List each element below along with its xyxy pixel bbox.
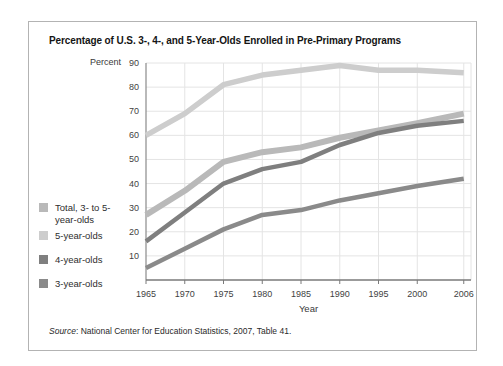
- legend-swatch: [39, 203, 48, 212]
- y-tick-label: 30: [129, 203, 139, 213]
- legend-label: 3-year-olds: [55, 278, 103, 290]
- source-note: Source: National Center for Education St…: [49, 326, 291, 336]
- y-tick-label: 40: [129, 179, 139, 189]
- y-tick-label: 80: [129, 82, 139, 92]
- x-tick-label: 1990: [330, 289, 350, 299]
- legend-item-3-year-olds: 3-year-olds: [39, 278, 103, 290]
- y-tick-label: 50: [129, 154, 139, 164]
- series-line-3-year-olds: [146, 179, 464, 268]
- source-text: : National Center for Education Statisti…: [76, 326, 291, 336]
- x-tick-label: 1965: [136, 289, 156, 299]
- y-tick-label: 90: [129, 58, 139, 68]
- legend-item-total: Total, 3- to 5- year-olds: [39, 202, 110, 226]
- x-tick-label: 1985: [291, 289, 311, 299]
- legend-swatch: [39, 231, 48, 240]
- x-axis-title: Year: [146, 303, 471, 314]
- x-tick-label: 1975: [213, 289, 233, 299]
- x-tick-label: 1995: [368, 289, 388, 299]
- legend-label: 5-year-olds: [55, 230, 103, 242]
- legend-label: Total, 3- to 5-: [55, 202, 110, 214]
- legend-item-5-year-olds: 5-year-olds: [39, 230, 103, 242]
- x-tick-label: 1970: [175, 289, 195, 299]
- figure-panel: Percentage of U.S. 3-, 4-, and 5-Year-Ol…: [28, 21, 477, 351]
- page: Percentage of U.S. 3-, 4-, and 5-Year-Ol…: [0, 0, 503, 366]
- y-tick-label: 20: [129, 227, 139, 237]
- source-label: Source: [49, 326, 76, 336]
- y-tick-label: 60: [129, 130, 139, 140]
- legend-label: 4-year-olds: [55, 254, 103, 266]
- legend-swatch: [39, 279, 48, 288]
- legend-label-line2: year-olds: [55, 214, 110, 226]
- y-tick-label: 10: [129, 251, 139, 261]
- x-tick-label: 2000: [407, 289, 427, 299]
- y-tick-label: 70: [129, 106, 139, 116]
- x-tick-label: 1980: [252, 289, 272, 299]
- x-tick-label: 2006: [454, 289, 474, 299]
- series-line-total-3-to-5-year-olds: [146, 114, 464, 215]
- legend-swatch: [39, 255, 48, 264]
- legend-item-4-year-olds: 4-year-olds: [39, 254, 103, 266]
